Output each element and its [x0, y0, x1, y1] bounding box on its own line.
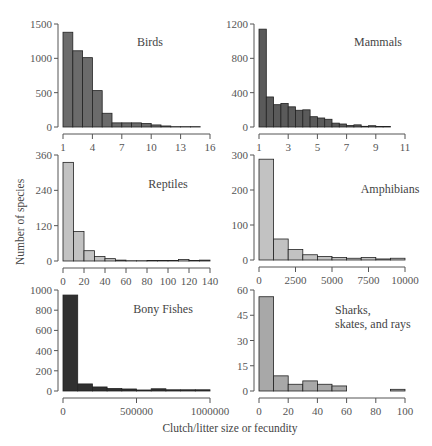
- bar: [332, 123, 339, 127]
- y-tick-label: 400: [232, 87, 249, 99]
- bar: [161, 126, 171, 127]
- x-tick-label: 4: [90, 141, 96, 153]
- y-axis-label: Number of species: [14, 178, 27, 265]
- bar: [303, 381, 318, 391]
- y-tick-label: 100: [232, 219, 249, 231]
- bar: [73, 51, 83, 127]
- panel-reptiles: 0120240360020406080100120140Reptiles: [36, 149, 219, 287]
- x-tick-label: 2500: [285, 274, 308, 286]
- bar: [166, 390, 181, 391]
- x-tick-label: 100: [160, 275, 177, 287]
- y-tick-label: 1200: [226, 18, 249, 30]
- bar: [78, 384, 93, 391]
- panel-title: Birds: [137, 35, 163, 49]
- bar: [95, 257, 106, 261]
- y-tick-label: 800: [232, 52, 249, 64]
- x-tick-label: 11: [400, 141, 411, 153]
- y-tick-label: 1500: [30, 18, 53, 30]
- x-axis: 020406080100120140: [60, 268, 219, 287]
- bar: [189, 260, 200, 261]
- bar: [332, 258, 347, 260]
- x-axis: 05000001000000: [60, 398, 230, 417]
- bar: [376, 259, 391, 260]
- bar: [151, 125, 161, 127]
- bar: [122, 389, 137, 391]
- y-tick-label: 200: [232, 184, 249, 196]
- y-tick-label: 500: [36, 87, 53, 99]
- x-tick-label: 5: [315, 141, 321, 153]
- bar: [102, 113, 112, 127]
- x-axis-label: Clutch/litter size or fecundity: [162, 422, 297, 435]
- panel-title: Reptiles: [148, 177, 188, 191]
- y-tick-label: 0: [243, 385, 249, 397]
- bar: [147, 260, 158, 261]
- bar: [390, 389, 405, 391]
- x-tick-label: 100: [397, 405, 414, 417]
- bar: [116, 260, 127, 261]
- y-tick-label: 800: [36, 304, 53, 316]
- panel-mammals: 040080012001357911Mammals: [226, 18, 410, 153]
- bar: [274, 239, 289, 260]
- y-tick-label: 15: [237, 360, 249, 372]
- x-tick-label: 80: [370, 405, 382, 417]
- x-tick-label: 40: [100, 275, 112, 287]
- x-tick-label: 140: [202, 275, 219, 287]
- bar: [303, 110, 310, 127]
- x-tick-label: 0: [60, 275, 66, 287]
- y-tick-label: 0: [47, 255, 53, 267]
- x-tick-label: 7: [119, 141, 125, 153]
- y-tick-label: 0: [243, 254, 249, 266]
- bar: [369, 126, 376, 127]
- x-tick-label: 120: [181, 275, 198, 287]
- bar: [347, 258, 362, 260]
- bar: [200, 260, 211, 261]
- y-tick-label: 0: [47, 385, 53, 397]
- x-axis: 147101316: [60, 134, 216, 153]
- bar: [354, 125, 361, 127]
- y-axis: 02004006008001000: [30, 284, 58, 397]
- y-tick-label: 600: [36, 324, 53, 336]
- bar: [112, 123, 122, 127]
- bar: [151, 389, 166, 391]
- x-tick-label: 20: [79, 275, 91, 287]
- x-tick-label: 3: [285, 141, 291, 153]
- x-tick-label: 10000: [391, 274, 419, 286]
- bar: [361, 126, 368, 127]
- bar: [317, 384, 332, 391]
- y-tick-label: 300: [232, 149, 249, 161]
- bar: [122, 123, 132, 127]
- bar: [92, 387, 107, 391]
- bar: [274, 376, 289, 391]
- panel-title: Amphibians: [361, 182, 420, 196]
- x-tick-label: 80: [142, 275, 154, 287]
- bar: [296, 110, 303, 127]
- bar: [259, 29, 266, 127]
- bars: [63, 162, 210, 261]
- x-axis: 1357911: [256, 134, 410, 153]
- bar: [168, 260, 179, 261]
- bar: [325, 119, 332, 127]
- y-tick-label: 0: [243, 121, 249, 133]
- x-tick-label: 9: [373, 141, 379, 153]
- x-tick-label: 10: [146, 141, 158, 153]
- x-tick-label: 60: [341, 405, 353, 417]
- bar: [310, 117, 317, 127]
- y-tick-label: 30: [237, 335, 249, 347]
- y-axis: 0120240360: [36, 149, 59, 267]
- y-tick-label: 240: [36, 184, 53, 196]
- x-tick-label: 0: [256, 274, 262, 286]
- bar: [281, 103, 288, 127]
- bar: [83, 58, 93, 127]
- x-tick-label: 0: [256, 405, 262, 417]
- panel-title: Sharks,: [335, 303, 371, 317]
- y-tick-label: 400: [36, 345, 53, 357]
- y-axis: 050010001500: [30, 18, 58, 133]
- panel-title: Mammals: [354, 35, 402, 49]
- y-axis: 0100200300: [232, 149, 255, 266]
- bar: [288, 107, 295, 127]
- bar: [158, 260, 169, 261]
- panel-bony-fishes: 0200400600800100005000001000000Bony Fish…: [30, 284, 230, 417]
- bar: [63, 295, 78, 391]
- x-tick-label: 13: [175, 141, 187, 153]
- y-tick-label: 1000: [30, 284, 53, 296]
